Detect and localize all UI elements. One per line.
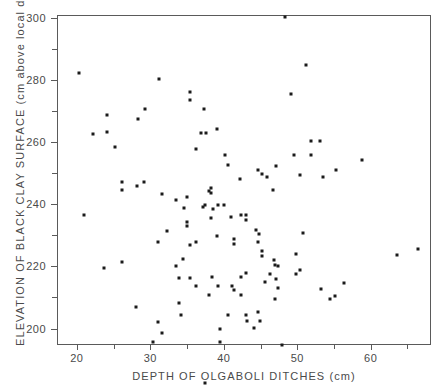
data-point	[188, 90, 191, 93]
y-tick	[51, 18, 57, 19]
data-point	[92, 132, 95, 135]
data-point	[195, 147, 198, 150]
data-point	[106, 113, 109, 116]
x-tick-label: 50	[291, 352, 304, 364]
data-point	[230, 215, 233, 218]
data-point	[239, 178, 242, 181]
data-point	[175, 264, 178, 267]
data-point	[272, 188, 275, 191]
data-point	[239, 214, 242, 217]
data-point	[188, 98, 191, 101]
data-point	[281, 344, 284, 347]
data-point	[253, 326, 256, 329]
data-point	[275, 165, 278, 168]
data-point	[289, 92, 292, 95]
y-tick-minor	[52, 49, 57, 50]
data-point	[161, 331, 164, 334]
x-tick	[150, 345, 151, 350]
data-point	[277, 264, 280, 267]
data-point	[217, 203, 220, 206]
data-point	[256, 240, 259, 243]
data-points-layer	[58, 16, 430, 344]
y-tick	[51, 204, 57, 205]
data-point	[181, 257, 184, 260]
data-point	[245, 213, 248, 216]
x-tick-minor	[261, 345, 262, 349]
data-point	[203, 382, 206, 385]
y-tick-minor	[52, 235, 57, 236]
data-point	[320, 287, 323, 290]
data-point	[260, 172, 263, 175]
x-tick-minor	[187, 345, 188, 349]
data-point	[318, 139, 321, 142]
data-point	[209, 216, 212, 219]
y-tick-label: 220	[26, 260, 46, 272]
x-tick-minor	[407, 345, 408, 349]
data-point	[304, 63, 307, 66]
data-point	[156, 321, 159, 324]
plot-area	[57, 15, 431, 345]
data-point	[209, 186, 212, 189]
data-point	[284, 15, 287, 18]
data-point	[186, 220, 189, 223]
data-point	[218, 327, 221, 330]
data-point	[212, 207, 215, 210]
data-point	[186, 224, 189, 227]
data-point	[217, 285, 220, 288]
scatter-plot-figure: 2030405060 200220240260280300 DEPTH OF O…	[0, 0, 448, 391]
x-tick-label: 40	[217, 352, 230, 364]
data-point	[245, 314, 248, 317]
data-point	[158, 77, 161, 80]
data-point	[302, 231, 305, 234]
data-point	[232, 238, 235, 241]
data-point	[195, 285, 198, 288]
data-point	[256, 311, 259, 314]
y-tick	[51, 329, 57, 330]
data-point	[142, 180, 145, 183]
data-point	[298, 268, 301, 271]
data-point	[210, 276, 213, 279]
data-point	[322, 176, 325, 179]
y-tick	[51, 80, 57, 81]
data-point	[273, 258, 276, 261]
data-point	[195, 240, 198, 243]
data-point	[77, 71, 80, 74]
data-point	[226, 164, 229, 167]
y-tick-label: 280	[26, 74, 46, 86]
data-point	[143, 108, 146, 111]
data-point	[361, 158, 364, 161]
data-point	[232, 289, 235, 292]
y-tick	[51, 142, 57, 143]
x-tick	[371, 345, 372, 350]
data-point	[275, 277, 278, 280]
x-tick-label: 30	[144, 352, 157, 364]
data-point	[334, 295, 337, 298]
y-tick-label: 240	[26, 198, 46, 210]
y-tick-label: 260	[26, 136, 46, 148]
data-point	[120, 260, 123, 263]
data-point	[215, 127, 218, 130]
y-tick-minor	[52, 173, 57, 174]
data-point	[292, 153, 295, 156]
data-point	[166, 229, 169, 232]
data-point	[245, 218, 248, 221]
data-point	[342, 282, 345, 285]
data-point	[135, 184, 138, 187]
data-point	[209, 192, 212, 195]
x-axis-title: DEPTH OF OLGABOLI DITCHES (cm)	[57, 370, 431, 382]
data-point	[188, 243, 191, 246]
data-point	[177, 277, 180, 280]
data-point	[137, 117, 140, 120]
x-tick	[224, 345, 225, 350]
data-point	[177, 301, 180, 304]
data-point	[259, 319, 262, 322]
data-point	[208, 294, 211, 297]
data-point	[180, 314, 183, 317]
data-point	[120, 180, 123, 183]
data-point	[223, 153, 226, 156]
data-point	[395, 253, 398, 256]
data-point	[328, 297, 331, 300]
data-point	[106, 131, 109, 134]
data-point	[264, 280, 267, 283]
data-point	[114, 145, 117, 148]
